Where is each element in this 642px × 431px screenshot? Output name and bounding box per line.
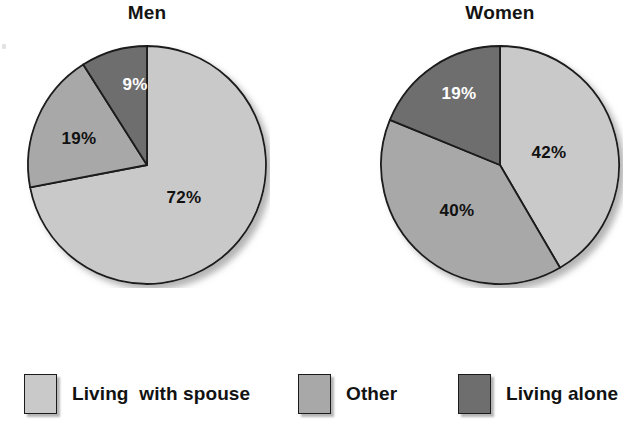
legend-label-other: Other [346,383,397,405]
pie-women-label-living-with-spouse: 42% [532,143,567,163]
chart-legend: Living with spouse Other Living alone [0,371,642,423]
pie-chart-women: 42% 40% 19% [377,42,623,288]
pie-chart-figure: Men 72% 19% 9% Women [0,0,642,431]
pie-men-label-other: 19% [62,129,97,149]
legend-label-living-alone: Living alone [506,383,618,405]
pie-women-label-other: 40% [440,201,475,221]
legend-label-living-with-spouse: Living with spouse [72,383,250,405]
pie-chart-men: 72% 19% 9% [24,42,270,288]
legend-swatch-living-with-spouse [24,374,57,414]
legend-item-living-alone[interactable]: Living alone [458,373,618,415]
scan-artifact-speck [2,44,6,49]
legend-item-living-with-spouse[interactable]: Living with spouse [24,373,250,415]
legend-swatch-other [298,374,331,414]
legend-swatch-living-alone [458,374,491,414]
chart-title-women: Women [410,2,590,24]
pie-women-svg [377,42,623,288]
legend-item-other[interactable]: Other [298,373,397,415]
pie-women-slices [381,46,619,284]
pie-men-label-living-with-spouse: 72% [167,188,202,208]
chart-title-men: Men [57,2,237,24]
pie-men-label-living-alone: 9% [122,75,147,95]
pie-women-label-living-alone: 19% [442,84,477,104]
